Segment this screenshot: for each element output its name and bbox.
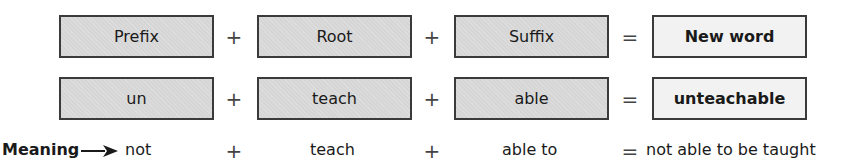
suffix-header-box: Suffix xyxy=(454,15,609,58)
meaning-suffix: able to xyxy=(502,139,557,161)
prefix-header-box: Prefix xyxy=(59,15,214,58)
meaning-result: not able to be taught xyxy=(646,139,816,161)
meaning-label: Meaning xyxy=(2,139,79,161)
plus-operator: + xyxy=(420,89,444,109)
plus-operator: + xyxy=(222,141,246,161)
new-word-example-box: unteachable xyxy=(652,77,807,120)
suffix-example-box: able xyxy=(454,77,609,120)
plus-operator: + xyxy=(420,141,444,161)
root-example-label: teach xyxy=(312,89,357,108)
plus-operator: + xyxy=(420,27,444,47)
meaning-root: teach xyxy=(310,139,355,161)
prefix-example-box: un xyxy=(59,77,214,120)
suffix-example-label: able xyxy=(514,89,548,108)
suffix-header-label: Suffix xyxy=(509,27,554,46)
root-header-label: Root xyxy=(316,27,352,46)
equals-operator: = xyxy=(618,89,642,109)
prefix-header-label: Prefix xyxy=(114,27,159,46)
plus-operator: + xyxy=(222,89,246,109)
new-word-example-label: unteachable xyxy=(674,89,786,108)
meaning-prefix: not xyxy=(125,139,151,161)
root-example-box: teach xyxy=(257,77,412,120)
prefix-example-label: un xyxy=(126,89,146,108)
equals-operator: = xyxy=(618,27,642,47)
root-header-box: Root xyxy=(257,15,412,58)
plus-operator: + xyxy=(222,27,246,47)
new-word-header-box: New word xyxy=(652,15,807,58)
equals-operator: = xyxy=(618,141,642,161)
new-word-header-label: New word xyxy=(685,27,775,46)
right-arrow-icon xyxy=(81,141,119,163)
